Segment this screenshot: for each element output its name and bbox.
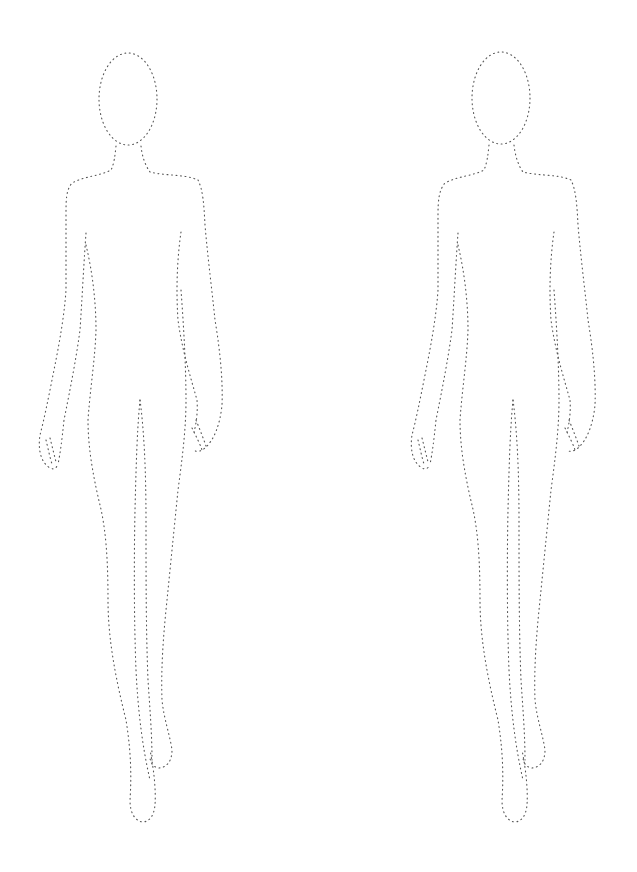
head-outline (472, 52, 530, 144)
croquis-figure-left: Croquis figure 1 (0, 0, 260, 872)
left-leg-inner (134, 400, 150, 780)
right-neck-shoulder-outline (514, 145, 595, 451)
head-outline (99, 53, 157, 145)
right-hand-fingers (565, 420, 579, 450)
figure-outline-svg (370, 0, 630, 872)
torso-right-leg-outer (150, 290, 186, 768)
left-hand-fingers (418, 438, 428, 464)
right-leg-inner (513, 400, 525, 760)
torso-right-leg-outer (523, 290, 559, 768)
right-inner-arm (177, 232, 197, 432)
croquis-canvas: Croquis figure 1 Croquis figure 2 (0, 0, 637, 872)
torso-left-leg-outer (458, 245, 527, 822)
left-hand-fingers (46, 438, 56, 464)
right-leg-inner (140, 400, 152, 760)
croquis-figure-right: Croquis figure 2 (370, 0, 630, 872)
torso-left-leg-outer (86, 245, 155, 822)
left-leg-inner (507, 400, 523, 780)
right-inner-arm (550, 232, 570, 432)
figure-outline-svg (0, 0, 260, 872)
left-neck-shoulder-outline (411, 145, 489, 469)
left-inner-arm (430, 233, 458, 464)
left-inner-arm (58, 233, 86, 464)
right-hand-fingers (192, 420, 206, 450)
left-neck-shoulder-outline (39, 146, 116, 469)
